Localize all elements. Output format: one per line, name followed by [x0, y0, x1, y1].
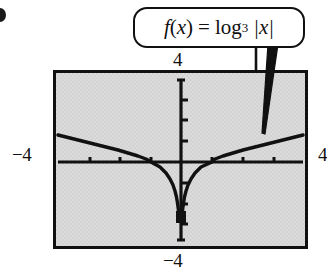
callout-paren-open: (: [170, 15, 177, 40]
function-callout-text: f(x)=log3|x|: [135, 9, 303, 46]
axis-label-left: −4: [12, 144, 31, 166]
asymptote-convergence-blob: [176, 211, 186, 223]
calculator-screen: [56, 73, 305, 246]
function-callout-box: f(x)=log3|x|: [133, 7, 305, 48]
callout-equals: =: [193, 15, 215, 40]
callout-paren-close: ): [186, 15, 193, 40]
plot-svg: [56, 73, 305, 246]
calculator-screen-frame: [53, 70, 308, 249]
callout-arg: x: [177, 15, 186, 40]
callout-log-base: 3: [242, 20, 249, 36]
callout-abs-arg: |x|: [253, 15, 274, 40]
axis-label-right: 4: [318, 144, 327, 166]
edge-marker-bullet: [0, 8, 6, 22]
axis-label-top: 4: [173, 49, 182, 71]
callout-log-word: log: [215, 15, 242, 40]
axis-label-bottom: −4: [163, 250, 182, 272]
